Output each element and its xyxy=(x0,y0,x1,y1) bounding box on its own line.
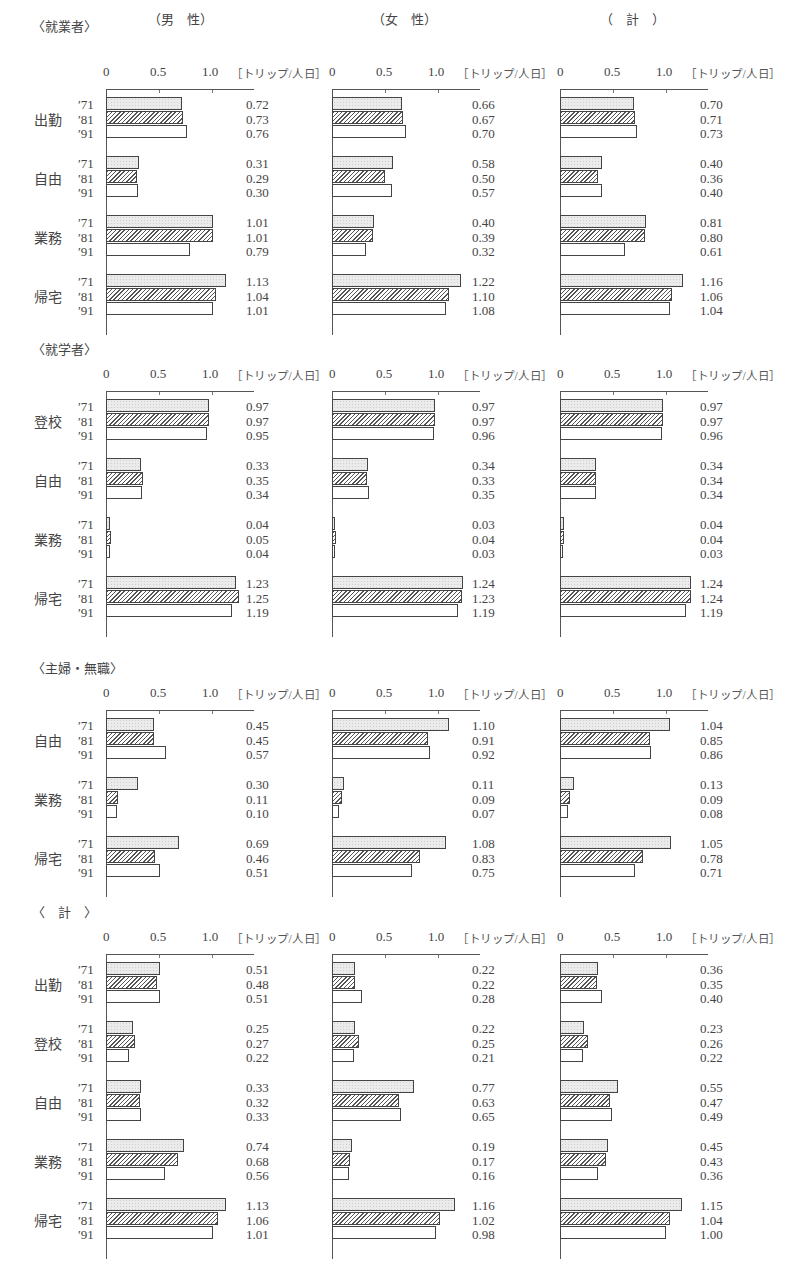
section-title: 〈就業者〉 xyxy=(32,16,97,35)
year-label: ′81 xyxy=(78,592,94,605)
bar-female-y91 xyxy=(332,1226,436,1239)
tick-mark xyxy=(666,955,667,958)
value-label: 1.15 xyxy=(700,1199,723,1212)
tick-mark xyxy=(438,711,439,714)
x-axis-line xyxy=(560,391,708,392)
bar-female-y71 xyxy=(332,156,393,169)
category-label: 自由 xyxy=(34,730,62,750)
bar-female-y91 xyxy=(332,545,335,558)
year-label: ′81 xyxy=(78,290,94,303)
category-label: 自由 xyxy=(34,470,62,490)
year-label: ′81 xyxy=(78,533,94,546)
x-axis-line xyxy=(332,710,480,711)
bar-female-y71 xyxy=(332,718,449,731)
value-label: 0.51 xyxy=(246,866,269,879)
value-label: 1.04 xyxy=(700,304,723,317)
axis-unit-label: ［トリップ/人日］ xyxy=(685,65,781,81)
tick-mark xyxy=(385,90,386,93)
value-label: 1.16 xyxy=(472,1199,495,1212)
year-label: ′91 xyxy=(78,245,94,258)
value-label: 1.04 xyxy=(246,290,269,303)
section-title: 〈 計 〉 xyxy=(32,902,97,921)
value-label: 1.00 xyxy=(700,1228,723,1241)
value-label: 0.31 xyxy=(246,157,269,170)
bar-total-y91 xyxy=(560,1167,598,1180)
bar-total-y71 xyxy=(560,215,646,228)
bar-male-y81 xyxy=(106,1153,178,1166)
bar-total-y91 xyxy=(560,990,602,1003)
value-label: 0.33 xyxy=(472,474,495,487)
value-label: 0.73 xyxy=(700,127,723,140)
bar-total-y91 xyxy=(560,604,686,617)
bar-total-y71 xyxy=(560,836,671,849)
value-label: 0.97 xyxy=(700,400,723,413)
axis-tick-label: 0 xyxy=(557,685,564,701)
year-label: ′91 xyxy=(78,1169,94,1182)
value-label: 0.40 xyxy=(700,157,723,170)
year-label: ′81 xyxy=(78,1037,94,1050)
axis-tick-label: 0.5 xyxy=(604,366,620,382)
tick-mark xyxy=(666,90,667,93)
category-label: 自由 xyxy=(34,1092,62,1112)
axis-tick-label: 1.0 xyxy=(428,929,444,945)
value-label: 1.08 xyxy=(472,837,495,850)
value-label: 0.03 xyxy=(472,547,495,560)
bar-female-y91 xyxy=(332,486,369,499)
tick-mark xyxy=(212,955,213,958)
bar-total-y91 xyxy=(560,125,637,138)
bar-male-y91 xyxy=(106,302,213,315)
bar-female-y91 xyxy=(332,243,366,256)
bar-female-y91 xyxy=(332,184,392,197)
value-label: 0.67 xyxy=(472,113,495,126)
bar-male-y71 xyxy=(106,962,160,975)
tick-mark xyxy=(385,955,386,958)
bar-male-y71 xyxy=(106,458,141,471)
tick-mark xyxy=(438,90,439,93)
year-label: ′71 xyxy=(78,518,94,531)
value-label: 0.95 xyxy=(246,429,269,442)
year-label: ′71 xyxy=(78,719,94,732)
bar-total-y81 xyxy=(560,229,645,242)
value-label: 0.34 xyxy=(472,459,495,472)
value-label: 0.68 xyxy=(246,1155,269,1168)
category-label: 業務 xyxy=(34,529,62,549)
axis-tick-label: 0 xyxy=(557,366,564,382)
bar-total-y81 xyxy=(560,1035,588,1048)
year-label: ′81 xyxy=(78,852,94,865)
category-label: 登校 xyxy=(34,1033,62,1053)
value-label: 0.30 xyxy=(246,778,269,791)
value-label: 0.66 xyxy=(472,98,495,111)
value-label: 0.03 xyxy=(700,547,723,560)
tick-mark xyxy=(613,955,614,958)
bar-male-y71 xyxy=(106,274,226,287)
value-label: 0.05 xyxy=(246,533,269,546)
column-title-male: （男 性） xyxy=(148,9,213,28)
bar-total-y81 xyxy=(560,850,643,863)
axis-unit-label: ［トリップ/人日］ xyxy=(685,686,781,702)
value-label: 0.57 xyxy=(472,186,495,199)
bar-female-y91 xyxy=(332,864,412,877)
value-label: 0.81 xyxy=(700,216,723,229)
year-label: ′71 xyxy=(78,577,94,590)
value-label: 0.21 xyxy=(472,1051,495,1064)
bar-total-y81 xyxy=(560,1212,670,1225)
axis-tick-label: 0.5 xyxy=(604,685,620,701)
value-label: 0.25 xyxy=(472,1037,495,1050)
value-label: 1.05 xyxy=(700,837,723,850)
year-label: ′81 xyxy=(78,172,94,185)
bar-female-y81 xyxy=(332,111,403,124)
category-label: 帰宅 xyxy=(34,588,62,608)
bar-total-y71 xyxy=(560,1080,618,1093)
bar-male-y71 xyxy=(106,399,209,412)
value-label: 0.04 xyxy=(700,518,723,531)
value-label: 1.01 xyxy=(246,1228,269,1241)
bar-male-y71 xyxy=(106,836,179,849)
value-label: 1.19 xyxy=(700,606,723,619)
value-label: 0.98 xyxy=(472,1228,495,1241)
value-label: 0.40 xyxy=(700,992,723,1005)
value-label: 1.16 xyxy=(700,275,723,288)
bar-total-y71 xyxy=(560,1198,682,1211)
year-label: ′81 xyxy=(78,1096,94,1109)
year-label: ′71 xyxy=(78,459,94,472)
bar-male-y81 xyxy=(106,229,213,242)
